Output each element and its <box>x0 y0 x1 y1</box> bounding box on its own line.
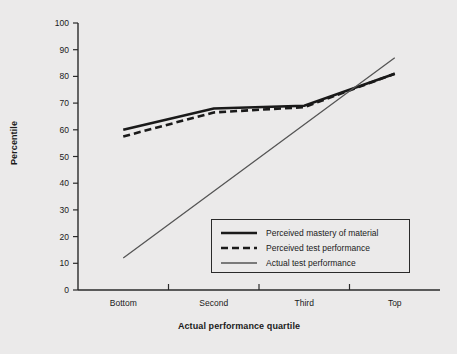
chart-container: Percentile Actual performance quartile 0… <box>0 0 457 354</box>
legend-label: Perceived test performance <box>266 243 370 253</box>
y-tick-label: 60 <box>43 125 69 135</box>
x-tick-label: Bottom <box>110 298 137 308</box>
x-tick-label: Top <box>388 298 402 308</box>
x-axis-title: Actual performance quartile <box>78 321 400 331</box>
x-tick-label: Second <box>199 298 228 308</box>
y-tick-label: 30 <box>43 205 69 215</box>
y-tick-label: 90 <box>43 45 69 55</box>
solid-thick-line-icon <box>221 227 257 239</box>
x-axis-ticks <box>169 284 350 290</box>
legend-item: Perceived test performance <box>212 240 409 255</box>
legend-item: Actual test performance <box>212 255 409 270</box>
dashed-thick-line-icon <box>221 242 257 254</box>
solid-thin-line-icon <box>221 257 257 269</box>
y-tick-label: 80 <box>43 71 69 81</box>
x-tick-label: Third <box>295 298 314 308</box>
y-tick-label: 40 <box>43 178 69 188</box>
chart-legend: Perceived mastery of materialPerceived t… <box>211 219 410 273</box>
y-axis-ticks <box>73 23 78 290</box>
y-tick-label: 70 <box>43 98 69 108</box>
legend-label: Perceived mastery of material <box>266 228 378 238</box>
series-line <box>123 74 395 137</box>
y-tick-label: 50 <box>43 152 69 162</box>
y-tick-label: 10 <box>43 258 69 268</box>
y-tick-label: 100 <box>43 18 69 28</box>
y-axis-title: Percentile <box>9 103 19 183</box>
y-tick-label: 0 <box>43 285 69 295</box>
legend-item: Perceived mastery of material <box>212 225 409 240</box>
series-line <box>123 74 395 130</box>
legend-label: Actual test performance <box>266 258 356 268</box>
y-tick-label: 20 <box>43 232 69 242</box>
